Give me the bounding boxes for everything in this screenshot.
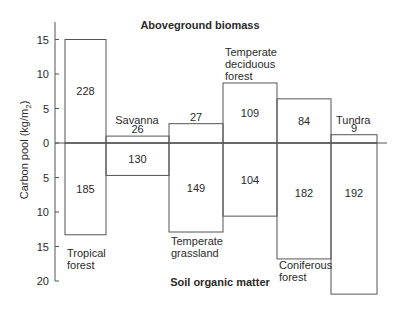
y-tick-label: 15 [37,241,49,253]
value-label-aboveground: 109 [241,107,259,119]
bars [65,40,377,295]
y-tick-label: 10 [37,68,49,80]
bar-aboveground [169,124,223,143]
y-tick-label: 10 [37,206,49,218]
labels: 2281852613027149109104841829192Tropicalf… [67,46,371,283]
bar-aboveground [331,135,377,143]
category-label: Tundra [336,114,371,126]
y-tick-label: 5 [43,172,49,184]
y-axis-label: Carbon pool (kg/m2) [18,101,33,200]
value-label-soil: 182 [295,187,313,199]
bar-aboveground [106,136,169,143]
value-label-aboveground: 228 [76,85,94,97]
value-label-soil: 130 [128,153,146,165]
category-label: Tropicalforest [67,247,106,271]
value-label-soil: 192 [345,187,363,199]
y-tick-label: 20 [37,275,49,287]
carbon-pool-chart: 1510505101520 22818526130271491091048418… [0,0,404,311]
value-label-soil: 149 [187,182,205,194]
category-label: Temperatedeciduousforest [225,46,277,82]
bar-soil [331,143,377,294]
y-tick-label: 5 [43,103,49,115]
category-label: Savanna [115,114,159,126]
value-label-aboveground: 84 [298,115,310,127]
category-label: Temperategrassland [171,235,223,259]
value-label-soil: 104 [241,174,259,186]
bar-soil [277,143,331,259]
y-tick-label: 15 [37,34,49,46]
value-label-aboveground: 27 [190,111,202,123]
y-tick-label: 0 [43,137,49,149]
title-aboveground: Aboveground biomass [140,19,259,31]
value-label-soil: 185 [76,183,94,195]
title-soil: Soil organic matter [170,276,270,288]
category-label: Coniferousforest [279,259,333,283]
